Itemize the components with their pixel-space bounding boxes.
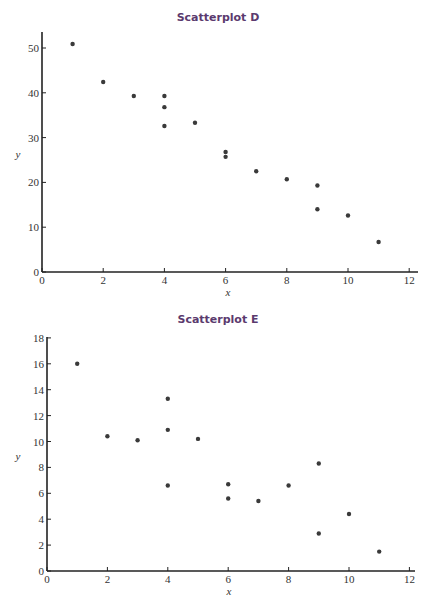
data-point — [226, 482, 230, 486]
x-tick-label: 10 — [343, 274, 355, 286]
data-point — [377, 549, 381, 553]
data-point — [376, 240, 380, 244]
y-axis-label: y — [15, 450, 21, 462]
data-point — [132, 94, 136, 98]
x-axis-label: x — [226, 585, 232, 597]
y-tick-label: 10 — [28, 221, 40, 233]
data-point — [166, 397, 170, 401]
data-point — [162, 124, 166, 128]
x-tick-label: 8 — [286, 573, 292, 585]
y-tick-label: 30 — [28, 132, 40, 144]
y-tick-label: 40 — [28, 87, 40, 99]
data-point — [101, 80, 105, 84]
y-tick-label: 0 — [34, 266, 40, 278]
data-point — [135, 438, 139, 442]
y-axis-label: y — [15, 148, 21, 160]
data-point — [226, 496, 230, 500]
y-tick-label: 50 — [28, 42, 40, 54]
plot-canvas: 02468101201020304050xy024681012024681012… — [0, 0, 436, 611]
y-tick-label: 8 — [39, 461, 45, 473]
data-point — [254, 169, 258, 173]
y-tick-label: 2 — [39, 539, 45, 551]
y-tick-label: 4 — [39, 513, 45, 525]
x-tick-label: 0 — [39, 274, 45, 286]
data-point — [346, 213, 350, 217]
data-point — [162, 105, 166, 109]
x-axis-label: x — [225, 286, 231, 298]
data-point — [223, 150, 227, 154]
y-tick-label: 14 — [33, 384, 45, 396]
data-point — [285, 177, 289, 181]
y-tick-label: 20 — [28, 176, 40, 188]
data-point — [70, 42, 74, 46]
x-tick-label: 12 — [404, 274, 415, 286]
data-point — [315, 207, 319, 211]
y-tick-label: 12 — [33, 410, 44, 422]
data-point — [286, 483, 290, 487]
y-tick-label: 18 — [33, 332, 45, 344]
data-point — [196, 437, 200, 441]
data-point — [166, 483, 170, 487]
data-point — [223, 155, 227, 159]
x-tick-label: 12 — [404, 573, 415, 585]
y-tick-label: 16 — [33, 358, 45, 370]
data-point — [315, 183, 319, 187]
y-tick-label: 10 — [33, 436, 45, 448]
data-point — [193, 121, 197, 125]
data-point — [256, 499, 260, 503]
x-tick-label: 2 — [100, 274, 106, 286]
x-tick-label: 4 — [165, 573, 171, 585]
y-tick-label: 0 — [39, 565, 45, 577]
data-point — [347, 512, 351, 516]
x-tick-label: 8 — [284, 274, 290, 286]
y-tick-label: 6 — [39, 487, 45, 499]
x-tick-label: 0 — [44, 573, 50, 585]
x-tick-label: 4 — [162, 274, 168, 286]
data-point — [166, 428, 170, 432]
x-tick-label: 10 — [344, 573, 356, 585]
x-tick-label: 2 — [105, 573, 111, 585]
data-point — [317, 461, 321, 465]
data-point — [105, 434, 109, 438]
data-point — [162, 94, 166, 98]
data-point — [75, 362, 79, 366]
x-tick-label: 6 — [223, 274, 229, 286]
x-tick-label: 6 — [225, 573, 231, 585]
data-point — [317, 531, 321, 535]
